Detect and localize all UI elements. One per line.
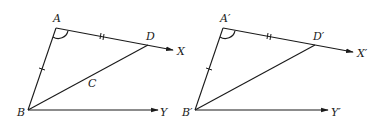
double-tick-AD-icon-2 [103, 34, 104, 40]
label-Y: Y [160, 106, 169, 119]
label-A-prime: A′ [219, 12, 231, 25]
label-A: A [52, 12, 61, 25]
double-tick-A-prime-D-prime-icon-1 [267, 33, 268, 39]
diagram-canvas: A D X B C Y A′ D′ X′ B′ Y′ [0, 0, 381, 123]
ray-A-prime-X-prime [223, 28, 353, 52]
label-D-prime: D′ [312, 30, 325, 43]
label-Y-prime: Y′ [331, 106, 341, 119]
double-tick-AD-icon-1 [100, 33, 101, 39]
left-figure: A D X B C Y [16, 12, 186, 119]
label-B-prime: B′ [181, 106, 193, 119]
right-figure: A′ D′ X′ B′ Y′ [181, 12, 368, 119]
label-X: X [176, 45, 186, 58]
angle-arc-A-prime-icon [220, 31, 235, 39]
label-B: B [16, 106, 25, 119]
double-tick-A-prime-D-prime-icon-2 [270, 34, 271, 40]
label-C: C [88, 77, 97, 90]
label-X-prime: X′ [356, 47, 368, 60]
label-D: D [145, 30, 155, 43]
ray-AX [56, 28, 173, 50]
angle-arc-A-icon [53, 31, 68, 39]
segment-B-prime-D-prime [195, 45, 315, 110]
